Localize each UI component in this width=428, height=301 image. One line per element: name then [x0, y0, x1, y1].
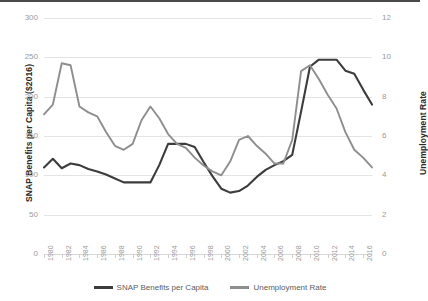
legend-item[interactable]: Unemployment Rate	[230, 283, 326, 292]
chart-legend: SNAP Benefits per CapitaUnemployment Rat…	[0, 283, 420, 292]
series-line	[44, 60, 372, 193]
legend-swatch-icon	[94, 286, 113, 288]
legend-swatch-icon	[230, 286, 249, 288]
series-line	[44, 63, 372, 175]
legend-label: SNAP Benefits per Capita	[117, 283, 209, 292]
legend-label: Unemployment Rate	[253, 283, 326, 292]
legend-item[interactable]: SNAP Benefits per Capita	[94, 283, 209, 292]
